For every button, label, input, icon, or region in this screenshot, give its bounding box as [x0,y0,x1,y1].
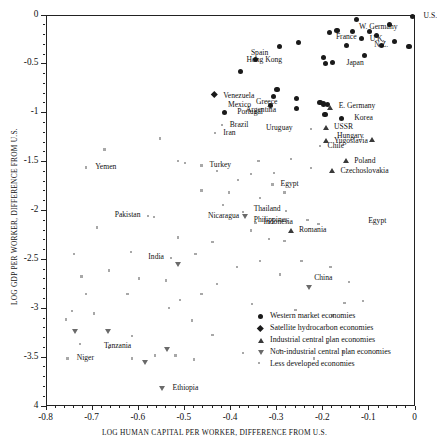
data-point [348,281,350,283]
y-minor-tick [43,161,46,162]
data-point-label: Poland [354,156,375,165]
data-point [193,358,195,360]
data-point-label: W. Germany [359,22,398,31]
data-point [170,257,172,259]
data-point-label: Czechoslovakia [341,166,389,175]
data-point [310,128,312,130]
data-point [177,160,179,162]
x-minor-tick [82,406,83,408]
data-point [259,197,261,199]
x-minor-tick [285,406,286,408]
data-point [237,179,239,181]
x-minor-tick [239,406,240,408]
x-tick-label: -0.8 [26,412,66,422]
data-point [242,352,244,354]
y-minor-tick [43,396,46,397]
x-minor-tick [248,406,249,408]
x-tick-label: -0.4 [210,412,250,422]
x-minor-tick [212,406,213,408]
data-point [96,226,98,228]
data-point [108,269,110,271]
data-point [323,61,328,66]
x-tick [92,406,93,411]
data-point-label: Indonesia [263,217,293,226]
data-point [290,158,292,160]
x-minor-tick [221,406,222,408]
y-minor-tick [43,298,46,299]
x-minor-tick [129,406,130,408]
data-point [131,357,133,359]
data-point-label: Philippines [0,215,288,224]
data-point [285,210,287,212]
x-tick-label: -0.3 [256,412,296,422]
data-point [105,329,111,334]
data-point [71,310,73,312]
data-point [216,170,218,172]
legend-label: Non-industrial central plan economies [270,347,391,356]
y-tick-label: -1.5 [2,155,39,165]
x-minor-tick [313,406,314,408]
data-point [362,300,364,302]
data-point-label: E. Germany [339,101,376,110]
data-point [65,318,67,320]
data-point [288,228,294,233]
data-point-label: Korea [354,113,373,122]
data-point [80,275,82,277]
x-minor-tick [276,406,277,408]
data-point [273,172,275,174]
data-point [184,162,186,164]
data-point [131,335,133,337]
data-point [300,260,302,262]
data-point-label: Egypt [281,179,299,188]
data-point [283,191,285,193]
x-minor-tick [184,406,185,408]
data-point [154,354,156,356]
data-point-label: USSR [334,122,353,131]
y-axis-title: LOG GDP PER WORKER, DIFFERENCE FROM U.S. [10,128,19,305]
y-minor-tick [43,151,46,152]
data-point-label: Thailand [0,204,281,213]
x-minor-tick [368,406,369,408]
y-tick [41,15,46,16]
y-minor-tick [43,83,46,84]
x-minor-tick [331,406,332,408]
data-point [165,279,167,281]
data-point [322,112,327,117]
y-minor-tick [43,327,46,328]
data-point [191,319,193,321]
data-point [306,219,308,221]
data-point [179,299,181,301]
data-point [250,173,252,175]
data-point [323,125,329,130]
y-minor-tick [43,142,46,143]
data-point [85,293,87,295]
x-tick [415,406,416,411]
y-minor-tick [43,376,46,377]
data-point-label: China [314,273,332,282]
x-minor-tick [378,406,379,408]
x-minor-tick [147,406,148,408]
data-point-label: Ethiopia [173,383,199,392]
data-point [200,164,202,166]
data-point [126,293,128,295]
data-point [306,285,312,290]
y-tick-label: 4 [2,400,39,410]
y-minor-tick [43,200,46,201]
x-tick-label: -0.2 [302,412,342,422]
data-point-label: U.S. [424,11,437,20]
x-minor-tick [396,406,397,408]
data-point-label: Hong Kong [0,55,282,64]
legend-label: Industrial central plan economies [270,335,375,344]
data-point [310,167,312,169]
data-point [250,229,252,231]
x-tick-label: -0.7 [72,412,112,422]
x-minor-tick [341,406,342,408]
x-minor-tick [156,406,157,408]
x-tick-label: 0 [395,412,435,422]
x-minor-tick [387,406,388,408]
x-minor-tick [405,406,406,408]
y-tick-label: -3 [2,302,39,312]
data-point [327,105,333,110]
legend-label: Satellite hydrocarbon economies [270,323,373,332]
